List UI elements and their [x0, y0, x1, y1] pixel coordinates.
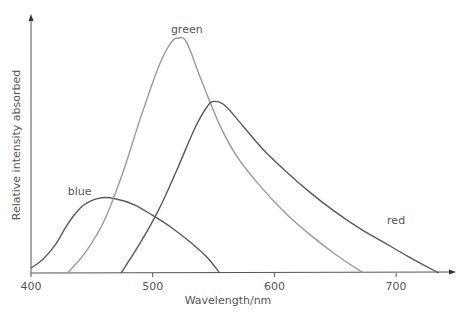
series-line-blue [31, 197, 220, 273]
x-ticks: 400500600700 [21, 273, 407, 293]
x-axis [31, 272, 450, 273]
x-axis-label: Wavelength/nm [185, 294, 272, 307]
y-axis-arrow-icon [29, 14, 34, 21]
absorption-spectrum-chart: 400500600700 bluegreenred Wavelength/nm … [0, 0, 467, 320]
series-labels: bluegreenred [68, 23, 405, 226]
series-line-red [121, 101, 439, 273]
x-tick-label: 700 [386, 280, 407, 293]
series-label-red: red [387, 214, 405, 227]
series-label-blue: blue [68, 185, 92, 198]
series-line-green [68, 38, 364, 273]
series-label-green: green [171, 23, 203, 36]
x-tick-label: 600 [264, 280, 285, 293]
series-lines [31, 38, 439, 273]
y-axis-label: Relative intensity absorbed [10, 70, 23, 220]
x-tick-label: 500 [142, 280, 163, 293]
axes [29, 14, 457, 275]
x-tick-label: 400 [21, 280, 42, 293]
x-axis-arrow-icon [449, 270, 456, 275]
